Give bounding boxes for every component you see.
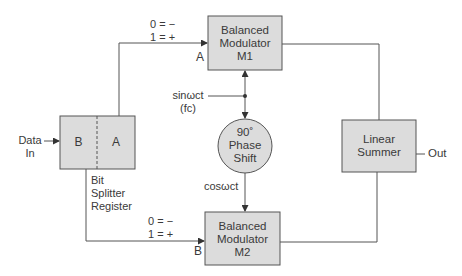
- splitter-cell-b: B: [60, 136, 97, 149]
- caption-bit: Bit: [91, 174, 132, 187]
- m2-to-summer-line: [280, 172, 377, 242]
- splitter-caption: Bit Splitter Register: [91, 174, 132, 213]
- cos-label: cosωct: [204, 180, 238, 193]
- summer-line2: Summer: [342, 146, 416, 159]
- junction-dot: [243, 94, 247, 98]
- channel-b-map2: 1 = +: [148, 228, 173, 241]
- m1-line1: Balanced: [208, 24, 282, 37]
- m1-line3: M1: [208, 50, 282, 63]
- channel-b-label: B: [194, 245, 202, 258]
- carrier-line2: (fc): [170, 102, 206, 115]
- caption-splitter: Splitter: [91, 187, 132, 200]
- carrier-label: sinωct (fc): [170, 89, 206, 115]
- phase-shift-label: 90˚ Phase Shift: [218, 126, 272, 165]
- data-in-line1: Data: [16, 134, 44, 147]
- channel-a-map1: 0 = −: [150, 18, 175, 31]
- channel-b-map1: 0 = −: [148, 215, 173, 228]
- data-in-label: Data In: [16, 134, 44, 160]
- phase-line1: 90˚: [218, 126, 272, 139]
- channel-a-mapping: 0 = − 1 = +: [150, 18, 175, 44]
- splitter-cell-a: A: [97, 136, 135, 149]
- m2-label: Balanced Modulator M2: [205, 220, 280, 259]
- phase-line2: Phase: [218, 139, 272, 152]
- summer-line1: Linear: [342, 133, 416, 146]
- channel-a-map2: 1 = +: [150, 31, 175, 44]
- m1-line2: Modulator: [208, 37, 282, 50]
- output-label: Out: [428, 147, 447, 160]
- m2-line2: Modulator: [205, 233, 280, 246]
- qpsk-modulator-diagram: Data In B A Bit Splitter Register 0 = − …: [0, 0, 462, 276]
- channel-b-mapping: 0 = − 1 = +: [148, 215, 173, 241]
- summer-label: Linear Summer: [342, 133, 416, 159]
- carrier-line1: sinωct: [170, 89, 206, 102]
- data-in-line2: In: [16, 147, 44, 160]
- m2-line3: M2: [205, 246, 280, 259]
- m1-to-summer-line: [282, 44, 379, 120]
- caption-register: Register: [91, 200, 132, 213]
- phase-line3: Shift: [218, 152, 272, 165]
- channel-a-label: A: [196, 51, 204, 64]
- m1-label: Balanced Modulator M1: [208, 24, 282, 63]
- m2-line1: Balanced: [205, 220, 280, 233]
